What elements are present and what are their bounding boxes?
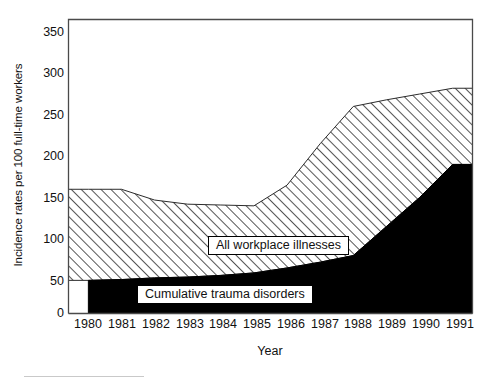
chart-figure: Incidence rates per 100 full-time worker… <box>0 0 492 389</box>
x-axis-title: Year <box>210 344 330 358</box>
x-tick-label-1991: 1991 <box>440 317 480 331</box>
footer-rule <box>24 376 144 377</box>
legend-label-all-workplace-illnesses: All workplace illnesses <box>208 236 349 255</box>
legend-label-cumulative-trauma-disorders: Cumulative trauma disorders <box>137 285 313 304</box>
